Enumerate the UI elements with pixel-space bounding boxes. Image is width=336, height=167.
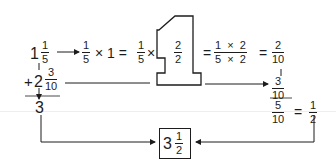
- mixed-whole-2: 2: [34, 74, 43, 89]
- inner-frac-2-2: 2 2: [174, 40, 182, 65]
- times-one-equals: × 1 =: [95, 46, 127, 61]
- equals-sign-1: =: [203, 46, 211, 61]
- whole-sum: 3: [35, 100, 44, 115]
- numerator: 5: [274, 100, 282, 112]
- result-frac-2-10: 2 10: [272, 40, 284, 65]
- numerator: 2: [174, 40, 182, 52]
- numerator: 1 × 2: [214, 40, 247, 52]
- mixed-whole-1: 1: [30, 46, 39, 61]
- carried-frac-3-10: 3 10: [272, 76, 284, 101]
- answer-whole: 3: [163, 136, 172, 151]
- denominator: 2: [175, 53, 181, 65]
- mixed-frac-3-10: 3 10: [45, 67, 57, 92]
- equals-sign-3: =: [294, 105, 302, 120]
- numerator: 1: [175, 131, 183, 143]
- numerator: 1: [309, 100, 317, 112]
- numerator: 1: [137, 40, 145, 52]
- numerator: 3: [47, 67, 55, 79]
- equals-sign-2: =: [259, 46, 267, 61]
- denominator: 2: [310, 113, 316, 125]
- simplified-frac-1-2: 1 2: [309, 100, 317, 125]
- answer-box: 3 1 2: [159, 128, 191, 159]
- numerator: 1: [41, 40, 49, 52]
- denominator: 2: [176, 144, 182, 156]
- denominator: 10: [45, 80, 57, 92]
- denominator: 5: [83, 53, 89, 65]
- frac-sum-5-10: 5 10: [272, 100, 284, 125]
- step-frac-1-5: 1 5: [82, 40, 90, 65]
- denominator: 5: [42, 53, 48, 65]
- denominator: 10: [272, 53, 284, 65]
- numerator: 2: [274, 40, 282, 52]
- answer-frac-1-2: 1 2: [175, 131, 183, 156]
- numerator: 3: [274, 76, 282, 88]
- times-sign: ×: [147, 46, 155, 61]
- mixed-frac-1-5: 1 5: [41, 40, 49, 65]
- numerator: 1: [82, 40, 90, 52]
- plus-sign: +: [24, 74, 33, 89]
- denominator: 5: [138, 53, 144, 65]
- denominator: 5 × 2: [215, 53, 246, 65]
- product-frac: 1 × 2 5 × 2: [214, 40, 247, 65]
- step2-frac-1-5: 1 5: [137, 40, 145, 65]
- denominator: 10: [272, 113, 284, 125]
